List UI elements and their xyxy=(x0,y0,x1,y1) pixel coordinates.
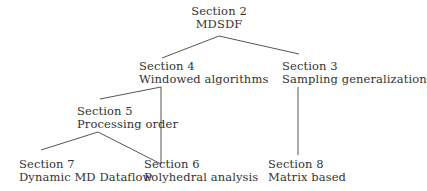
node-title: Matrix based xyxy=(268,171,346,184)
node-section-6: Section 6 Polyhedral analysis xyxy=(144,158,258,184)
edge-s2-s3 xyxy=(219,36,299,54)
node-title: Polyhedral analysis xyxy=(144,171,258,184)
edge-s2-s4 xyxy=(162,36,219,58)
node-section-2: Section 2 MDSDF xyxy=(191,5,247,31)
node-title: Windowed algorithms xyxy=(139,73,268,86)
node-title: Processing order xyxy=(77,118,178,131)
node-section-4: Section 4 Windowed algorithms xyxy=(139,60,268,86)
node-title: Sampling generalization xyxy=(282,73,427,86)
node-title: MDSDF xyxy=(191,18,247,31)
node-section-8: Section 8 Matrix based xyxy=(268,158,346,184)
node-section-7: Section 7 Dynamic MD Dataflow xyxy=(19,158,152,184)
node-title: Dynamic MD Dataflow xyxy=(19,171,152,184)
node-section-3: Section 3 Sampling generalization xyxy=(282,60,427,86)
edge-s5-s7 xyxy=(41,132,98,150)
edge-s4-s5 xyxy=(100,87,161,99)
node-section-5: Section 5 Processing order xyxy=(77,105,178,131)
